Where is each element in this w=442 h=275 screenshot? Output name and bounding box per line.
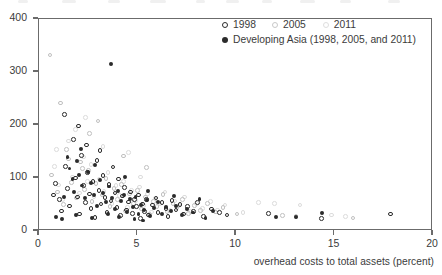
y-axis-label: 300	[0, 65, 27, 76]
plot-area	[38, 18, 432, 230]
legend-marker-developing-asia-icon	[222, 37, 228, 43]
artifact-blob	[226, 0, 239, 3]
artifact-blob	[340, 0, 351, 3]
y-axis-label: 0	[0, 224, 27, 235]
artifact-blob	[108, 0, 120, 3]
x-axis-label: 5	[122, 238, 152, 249]
x-axis-label: 10	[220, 238, 250, 249]
legend-label-2005: 2005	[283, 19, 306, 31]
legend-row-years: 1998 2005 2011	[222, 18, 434, 31]
y-axis-tick	[33, 70, 38, 71]
x-axis-label: 20	[417, 238, 442, 249]
y-axis-tick	[33, 176, 38, 177]
artifact-blob	[18, 0, 28, 3]
legend-item-2005[interactable]: 2005	[272, 19, 306, 31]
x-axis-label: 15	[319, 238, 349, 249]
legend-label-1998: 1998	[233, 19, 256, 31]
legend-marker-1998-icon	[222, 22, 228, 28]
legend-label-2011: 2011	[334, 19, 356, 31]
artifact-blob	[196, 0, 205, 3]
artifact-blob	[388, 0, 400, 3]
artifact-blob	[62, 0, 76, 3]
y-axis-label: 100	[0, 171, 27, 182]
y-axis-tick	[33, 17, 38, 18]
legend-label-developing-asia: Developing Asia (1998, 2005, and 2011)	[233, 34, 416, 46]
x-axis-tick	[37, 230, 38, 235]
legend-item-2011[interactable]: 2011	[323, 19, 356, 31]
x-axis-tick	[333, 230, 334, 235]
x-axis-tick	[431, 230, 432, 235]
legend-item-1998[interactable]: 1998	[222, 19, 256, 31]
scatter-chart-figure: 010020030040005101520 overhead costs to …	[0, 0, 442, 275]
artifact-blob	[300, 0, 315, 3]
artifact-blob	[150, 0, 166, 3]
legend-marker-2005-icon	[272, 22, 278, 28]
y-axis-tick	[33, 123, 38, 124]
x-axis-label: 0	[23, 238, 53, 249]
artifact-blob	[262, 0, 272, 3]
x-axis-tick	[234, 230, 235, 235]
y-axis-label: 200	[0, 118, 27, 129]
legend-item-developing-asia[interactable]: Developing Asia (1998, 2005, and 2011)	[222, 34, 416, 46]
legend-marker-2011-icon	[323, 22, 329, 28]
chart-legend: 1998 2005 2011 Developing Asia (1998, 20…	[222, 18, 434, 46]
x-axis-tick	[136, 230, 137, 235]
cropped-title-artifact	[0, 0, 442, 4]
legend-row-developing-asia: Developing Asia (1998, 2005, and 2011)	[222, 33, 434, 46]
x-axis-title: overhead costs to total assets (percent)	[254, 256, 434, 267]
y-axis-label: 400	[0, 12, 27, 23]
